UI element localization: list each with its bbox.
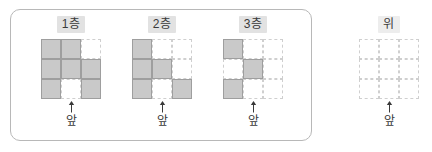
floor-title-wrap-3: 3층: [205, 14, 301, 33]
floor-title-wrap-1: 1층: [23, 14, 119, 33]
grid-cell-empty: [263, 79, 283, 99]
floor-group-3: 3층 앞: [205, 0, 301, 152]
up-arrow-icon: [341, 101, 432, 113]
up-arrow-icon: [23, 101, 119, 113]
grid-cell-filled: [132, 59, 152, 79]
grid-cell-empty: [152, 39, 172, 59]
grid-cell-filled: [152, 59, 172, 79]
grid-cell-filled: [81, 79, 101, 99]
grid-cell-empty: [243, 79, 263, 99]
front-label-3: 앞: [205, 114, 301, 128]
grid-cell-filled: [41, 39, 61, 59]
floor-grid-3: [223, 39, 283, 99]
top-view-title-wrap: 위: [341, 14, 432, 33]
grid-cell-filled: [172, 79, 192, 99]
top-view-title: 위: [378, 16, 399, 33]
grid-cell-empty: [223, 59, 243, 79]
floor-group-2: 2층 앞: [114, 0, 210, 152]
grid-cell-empty[interactable]: [379, 59, 399, 79]
grid-cell-empty[interactable]: [399, 39, 419, 59]
floor-title-1: 1층: [57, 16, 85, 33]
up-arrow-icon: [114, 101, 210, 113]
grid-cell-filled: [223, 39, 243, 59]
top-view-front-label: 앞: [341, 114, 432, 128]
floor-grid-2: [132, 39, 192, 99]
grid-cell-filled: [41, 59, 61, 79]
grid-cell-empty[interactable]: [399, 79, 419, 99]
floor-group-1: 1층 앞: [23, 0, 119, 152]
grid-cell-empty: [152, 79, 172, 99]
grid-cell-empty: [263, 59, 283, 79]
grid-cell-empty[interactable]: [359, 59, 379, 79]
top-view-grid[interactable]: [359, 39, 419, 99]
grid-cell-empty[interactable]: [399, 59, 419, 79]
grid-cell-filled: [223, 79, 243, 99]
floor-title-3: 3층: [239, 16, 267, 33]
grid-cell-filled: [61, 39, 81, 59]
grid-cell-filled: [81, 59, 101, 79]
front-label-2: 앞: [114, 114, 210, 128]
up-arrow-icon: [205, 101, 301, 113]
grid-cell-filled: [132, 79, 152, 99]
grid-cell-filled: [41, 79, 61, 99]
floor-title-2: 2층: [148, 16, 176, 33]
floor-title-wrap-2: 2층: [114, 14, 210, 33]
grid-cell-empty[interactable]: [359, 79, 379, 99]
grid-cell-empty[interactable]: [379, 39, 399, 59]
top-view-group: 위 앞: [341, 0, 432, 152]
grid-cell-empty: [263, 39, 283, 59]
grid-cell-filled: [61, 59, 81, 79]
front-label-1: 앞: [23, 114, 119, 128]
grid-cell-empty: [172, 59, 192, 79]
grid-cell-empty: [61, 79, 81, 99]
grid-cell-empty: [172, 39, 192, 59]
grid-cell-empty[interactable]: [379, 79, 399, 99]
grid-cell-empty: [243, 39, 263, 59]
grid-cell-filled: [243, 59, 263, 79]
grid-cell-empty: [81, 39, 101, 59]
grid-cell-filled: [132, 39, 152, 59]
grid-cell-empty[interactable]: [359, 39, 379, 59]
floor-grid-1: [41, 39, 101, 99]
